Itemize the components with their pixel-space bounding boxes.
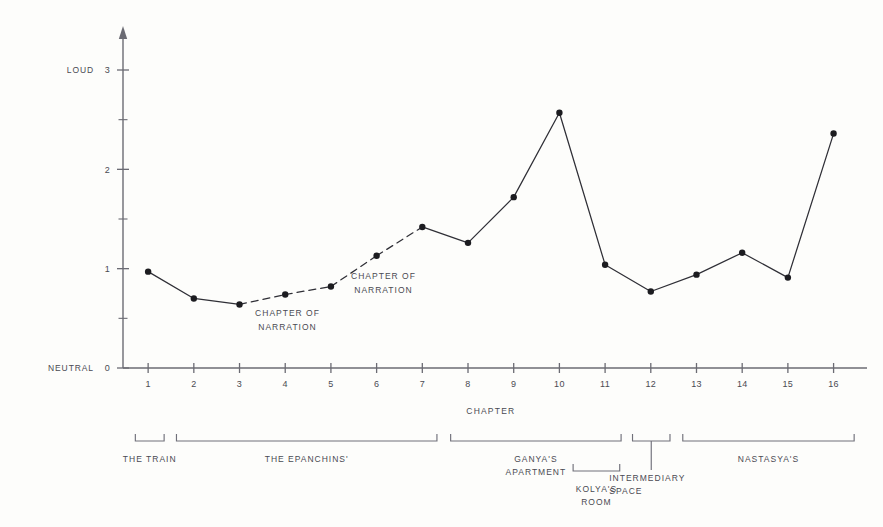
x-tick-label: 15: [783, 379, 794, 389]
data-point: [648, 288, 654, 294]
series-segment-solid: [468, 197, 514, 243]
series-segment-dashed: [377, 227, 423, 256]
bracket-rule: [633, 434, 670, 441]
chapter-of-narration-1: CHAPTER OFNARRATION: [255, 308, 320, 332]
data-point: [785, 274, 791, 280]
series-segment-solid: [742, 253, 788, 278]
data-point: [602, 261, 608, 267]
x-tick-label: 14: [737, 379, 748, 389]
setting-bracket-nastasyas: NASTASYA'S: [683, 434, 854, 464]
setting-bracket-intermediary-space: INTERMEDIARYSPACE: [609, 434, 685, 496]
series-segment-solid: [559, 113, 605, 265]
data-point: [236, 301, 242, 307]
annotation-line-2: NARRATION: [354, 285, 412, 295]
series-segment-solid: [148, 272, 194, 299]
setting-brackets-layer: THE TRAINTHE EPANCHINS'GANYA'SAPARTMENTK…: [123, 434, 854, 507]
x-tick-label: 1: [145, 379, 150, 389]
x-tick-label: 4: [283, 379, 288, 389]
bracket-label-line-2: ROOM: [581, 497, 611, 507]
bracket-rule: [683, 434, 854, 441]
series-segment-dashed: [285, 287, 331, 295]
setting-bracket-the-epanchins: THE EPANCHINS': [176, 434, 436, 464]
data-point: [693, 271, 699, 277]
data-point: [739, 250, 745, 256]
y-tick-label: 2: [105, 165, 110, 175]
setting-bracket-the-train: THE TRAIN: [123, 434, 177, 464]
bracket-label-line-2: SPACE: [609, 486, 642, 496]
series-segment-solid: [194, 298, 240, 304]
series-segment-solid: [605, 265, 651, 292]
x-tick-label: 9: [511, 379, 516, 389]
chapter-loudness-chart: 0123NEUTRALLOUD12345678910111213141516CH…: [0, 0, 883, 527]
x-tick-label: 8: [465, 379, 470, 389]
x-tick-label: 2: [191, 379, 196, 389]
series-segment-solid: [651, 275, 697, 292]
bracket-rule: [176, 434, 436, 441]
bracket-label-line-1: THE TRAIN: [123, 454, 177, 464]
bracket-label-line-1: THE EPANCHINS': [265, 454, 349, 464]
data-point: [511, 194, 517, 200]
axes-layer: 0123NEUTRALLOUD12345678910111213141516CH…: [48, 26, 867, 416]
bracket-rule: [451, 434, 621, 441]
series-segment-solid: [422, 227, 468, 243]
annotation-line-1: CHAPTER OF: [255, 308, 320, 318]
series-segment-solid: [788, 134, 834, 278]
data-point: [419, 224, 425, 230]
x-tick-label: 7: [420, 379, 425, 389]
chapter-of-narration-2: CHAPTER OFNARRATION: [351, 271, 416, 295]
data-point: [328, 283, 334, 289]
bracket-label-line-2: APARTMENT: [506, 467, 567, 477]
data-point: [830, 130, 836, 136]
data-point: [465, 240, 471, 246]
bracket-label-line-1: INTERMEDIARY: [609, 473, 685, 483]
data-point: [373, 253, 379, 259]
data-point: [282, 291, 288, 297]
series-segment-solid: [696, 253, 742, 275]
x-tick-label: 13: [691, 379, 702, 389]
y-tick-label: 0: [105, 363, 110, 373]
x-tick-label: 16: [828, 379, 839, 389]
series-segment-solid: [514, 113, 560, 197]
x-tick-label: 10: [554, 379, 565, 389]
x-tick-label: 11: [600, 379, 610, 389]
x-tick-label: 3: [237, 379, 242, 389]
bracket-rule: [573, 464, 620, 471]
y-axis-loud-label: LOUD: [67, 65, 94, 75]
bracket-label-line-1: GANYA'S: [514, 454, 557, 464]
x-tick-label: 5: [328, 379, 333, 389]
y-tick-label: 1: [105, 264, 110, 274]
bracket-rule: [135, 434, 164, 441]
series-layer: [145, 110, 837, 308]
data-point: [191, 295, 197, 301]
x-axis-title: CHAPTER: [466, 406, 515, 416]
data-point: [145, 268, 151, 274]
x-tick-label: 6: [374, 379, 379, 389]
y-axis-neutral-label: NEUTRAL: [48, 363, 94, 373]
y-tick-label: 3: [105, 65, 110, 75]
x-tick-label: 12: [645, 379, 656, 389]
data-point: [556, 110, 562, 116]
annotation-line-1: CHAPTER OF: [351, 271, 416, 281]
annotations-layer: CHAPTER OFNARRATIONCHAPTER OFNARRATION: [255, 271, 416, 333]
y-axis-arrowhead: [119, 26, 127, 39]
series-segment-dashed: [240, 294, 286, 304]
annotation-line-2: NARRATION: [258, 322, 316, 332]
bracket-label-line-1: NASTASYA'S: [738, 454, 799, 464]
